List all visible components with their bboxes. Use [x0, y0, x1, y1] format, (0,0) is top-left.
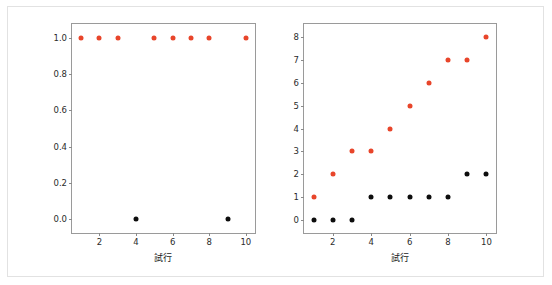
x-tick-label-right: 4 [368, 237, 373, 247]
data-point-right-black [311, 218, 316, 223]
y-tick-right [301, 83, 304, 84]
x-tick-right [486, 233, 487, 236]
x-tick-label-left: 6 [170, 237, 175, 247]
data-point-right-orange [426, 80, 431, 85]
x-tick-label-right: 8 [445, 237, 450, 247]
data-point-left-black [225, 216, 230, 221]
x-tick-left [246, 233, 247, 236]
y-tick-label-right: 3 [294, 146, 299, 156]
x-tick-right [371, 233, 372, 236]
y-tick-left [69, 74, 72, 75]
y-tick-right [301, 151, 304, 152]
x-tick-right [410, 233, 411, 236]
data-point-right-orange [484, 34, 489, 39]
y-tick-label-left: 0.2 [53, 178, 67, 188]
data-point-right-orange [407, 103, 412, 108]
y-tick-label-right: 0 [294, 215, 299, 225]
data-point-right-orange [330, 172, 335, 177]
scatter-panel-left: 2468100.00.20.40.60.81.0 試行 [0, 0, 276, 285]
y-tick-label-right: 5 [294, 101, 299, 111]
y-tick-label-left: 0.4 [53, 142, 67, 152]
x-tick-left [136, 233, 137, 236]
x-tick-left [99, 233, 100, 236]
y-tick-left [69, 183, 72, 184]
x-tick-label-left: 8 [207, 237, 212, 247]
y-tick-left [69, 219, 72, 220]
scatter-panel-right: 246810012345678 試行 [276, 0, 552, 285]
y-tick-right [301, 174, 304, 175]
figure-canvas: 2468100.00.20.40.60.81.0 試行 246810012345… [0, 0, 552, 285]
x-tick-right [333, 233, 334, 236]
x-tick-label-right: 2 [330, 237, 335, 247]
x-tick-left [173, 233, 174, 236]
y-tick-label-right: 7 [294, 55, 299, 65]
data-point-left-black [134, 216, 139, 221]
x-tick-label-right: 10 [481, 237, 492, 247]
y-tick-label-right: 8 [294, 32, 299, 42]
data-point-left-orange [243, 36, 248, 41]
y-tick-right [301, 60, 304, 61]
data-point-right-black [330, 218, 335, 223]
data-point-right-black [369, 195, 374, 200]
y-tick-label-left: 0.8 [53, 69, 67, 79]
y-tick-right [301, 129, 304, 130]
data-point-left-orange [188, 36, 193, 41]
x-tick-label-right: 6 [407, 237, 412, 247]
axes-left: 2468100.00.20.40.60.81.0 [71, 23, 256, 234]
y-tick-label-left: 1.0 [53, 33, 67, 43]
data-point-right-black [407, 195, 412, 200]
data-point-left-orange [97, 36, 102, 41]
y-tick-label-left: 0.0 [53, 214, 67, 224]
data-point-right-orange [311, 195, 316, 200]
data-point-right-black [484, 172, 489, 177]
x-tick-label-left: 4 [133, 237, 138, 247]
data-point-left-orange [115, 36, 120, 41]
y-tick-label-right: 2 [294, 169, 299, 179]
data-point-right-black [465, 172, 470, 177]
x-tick-left [209, 233, 210, 236]
y-tick-label-right: 1 [294, 192, 299, 202]
y-tick-left [69, 110, 72, 111]
data-point-right-black [446, 195, 451, 200]
y-tick-right [301, 197, 304, 198]
data-point-right-black [388, 195, 393, 200]
data-point-right-black [350, 218, 355, 223]
x-tick-right [448, 233, 449, 236]
x-axis-label-left: 試行 [154, 251, 172, 264]
y-tick-left [69, 38, 72, 39]
data-point-right-black [426, 195, 431, 200]
data-point-right-orange [465, 57, 470, 62]
data-point-left-orange [79, 36, 84, 41]
x-tick-label-left: 2 [97, 237, 102, 247]
y-tick-right [301, 106, 304, 107]
data-point-right-orange [350, 149, 355, 154]
y-tick-left [69, 147, 72, 148]
axes-right: 246810012345678 [303, 23, 497, 234]
data-point-right-orange [388, 126, 393, 131]
data-point-left-orange [152, 36, 157, 41]
y-tick-label-right: 4 [294, 124, 299, 134]
data-point-right-orange [446, 57, 451, 62]
plot-area-right [304, 24, 496, 233]
y-tick-label-right: 6 [294, 78, 299, 88]
y-tick-right [301, 37, 304, 38]
y-tick-right [301, 220, 304, 221]
plot-area-left [72, 24, 255, 233]
x-tick-label-left: 10 [240, 237, 251, 247]
y-tick-label-left: 0.6 [53, 105, 67, 115]
data-point-left-orange [207, 36, 212, 41]
data-point-left-orange [170, 36, 175, 41]
data-point-right-orange [369, 149, 374, 154]
x-axis-label-right: 試行 [391, 251, 409, 264]
